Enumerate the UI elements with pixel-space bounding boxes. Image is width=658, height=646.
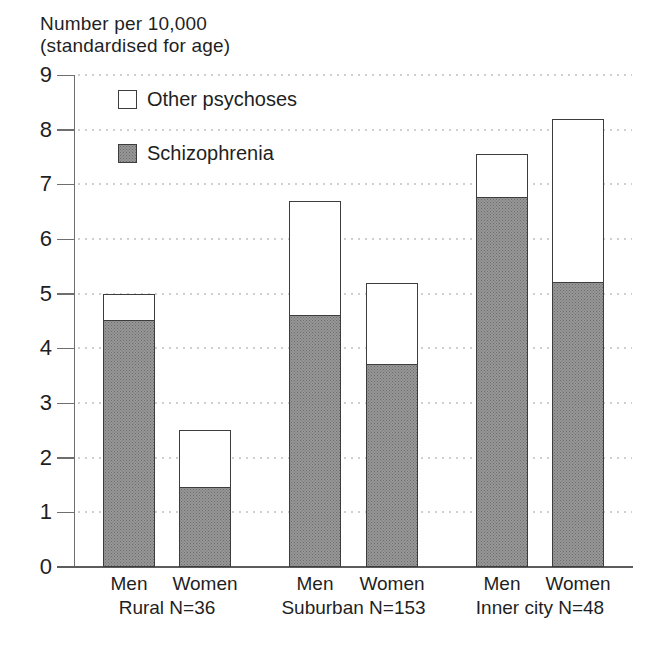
y-tick-label-6: 6 [0, 226, 52, 252]
y-tick-label-1: 1 [0, 499, 52, 525]
plot-area: 0123456789MenWomenRural N=36MenWomenSubu… [0, 0, 658, 646]
category-label-women-4: Women [347, 573, 437, 595]
y-tick-7 [57, 184, 75, 186]
y-tick-8 [57, 129, 75, 131]
chart-title-line2: (standardised for age) [40, 35, 230, 57]
gridline-3 [78, 402, 632, 404]
bar-inner-city-women [552, 119, 604, 567]
legend-item-other-psychoses: Other psychoses [118, 88, 297, 111]
y-tick-label-4: 4 [0, 335, 52, 361]
gridline-4 [78, 347, 632, 349]
y-axis-line [74, 75, 75, 567]
y-tick-label-9: 9 [0, 62, 52, 88]
schizophrenia-segment [104, 320, 154, 566]
gridline-9 [78, 74, 632, 76]
legend-label-other-psychoses: Other psychoses [147, 88, 297, 111]
schizophrenia-swatch-icon [118, 144, 137, 163]
bar-inner-city-men [476, 154, 528, 567]
schizophrenia-segment [180, 487, 230, 566]
bar-rural-men [103, 294, 155, 567]
bar-suburban-men [289, 201, 341, 567]
y-tick-label-0: 0 [0, 554, 52, 580]
y-tick-label-5: 5 [0, 281, 52, 307]
figure: 0123456789MenWomenRural N=36MenWomenSubu… [0, 0, 658, 646]
gridline-6 [78, 238, 632, 240]
category-label-women-6: Women [533, 573, 623, 595]
schizophrenia-segment [553, 282, 603, 566]
bar-suburban-women [366, 283, 418, 567]
gridline-8 [78, 129, 632, 131]
y-tick-4 [57, 348, 75, 350]
legend-item-schizophrenia: Schizophrenia [118, 142, 274, 165]
y-tick-5 [57, 293, 75, 295]
legend-label-schizophrenia: Schizophrenia [147, 142, 274, 165]
y-tick-label-2: 2 [0, 445, 52, 471]
y-tick-3 [57, 403, 75, 405]
y-tick-6 [57, 239, 75, 241]
y-tick-label-8: 8 [0, 117, 52, 143]
y-tick-2 [57, 457, 75, 459]
gridline-2 [78, 457, 632, 459]
schizophrenia-segment [367, 364, 417, 566]
category-label-women-2: Women [160, 573, 250, 595]
other-psychoses-swatch-icon [118, 90, 137, 109]
gridline-5 [78, 293, 632, 295]
y-tick-9 [57, 75, 75, 77]
group-label-inner-city: Inner city N=48 [430, 597, 650, 619]
schizophrenia-segment [290, 315, 340, 566]
chart-title: Number per 10,000 (standardised for age) [40, 13, 230, 57]
bar-rural-women [179, 430, 231, 567]
chart-title-line1: Number per 10,000 [40, 13, 230, 35]
gridline-1 [78, 511, 632, 513]
y-tick-label-3: 3 [0, 390, 52, 416]
schizophrenia-segment [477, 197, 527, 566]
y-tick-1 [57, 512, 75, 514]
y-tick-label-7: 7 [0, 171, 52, 197]
gridline-7 [78, 183, 632, 185]
